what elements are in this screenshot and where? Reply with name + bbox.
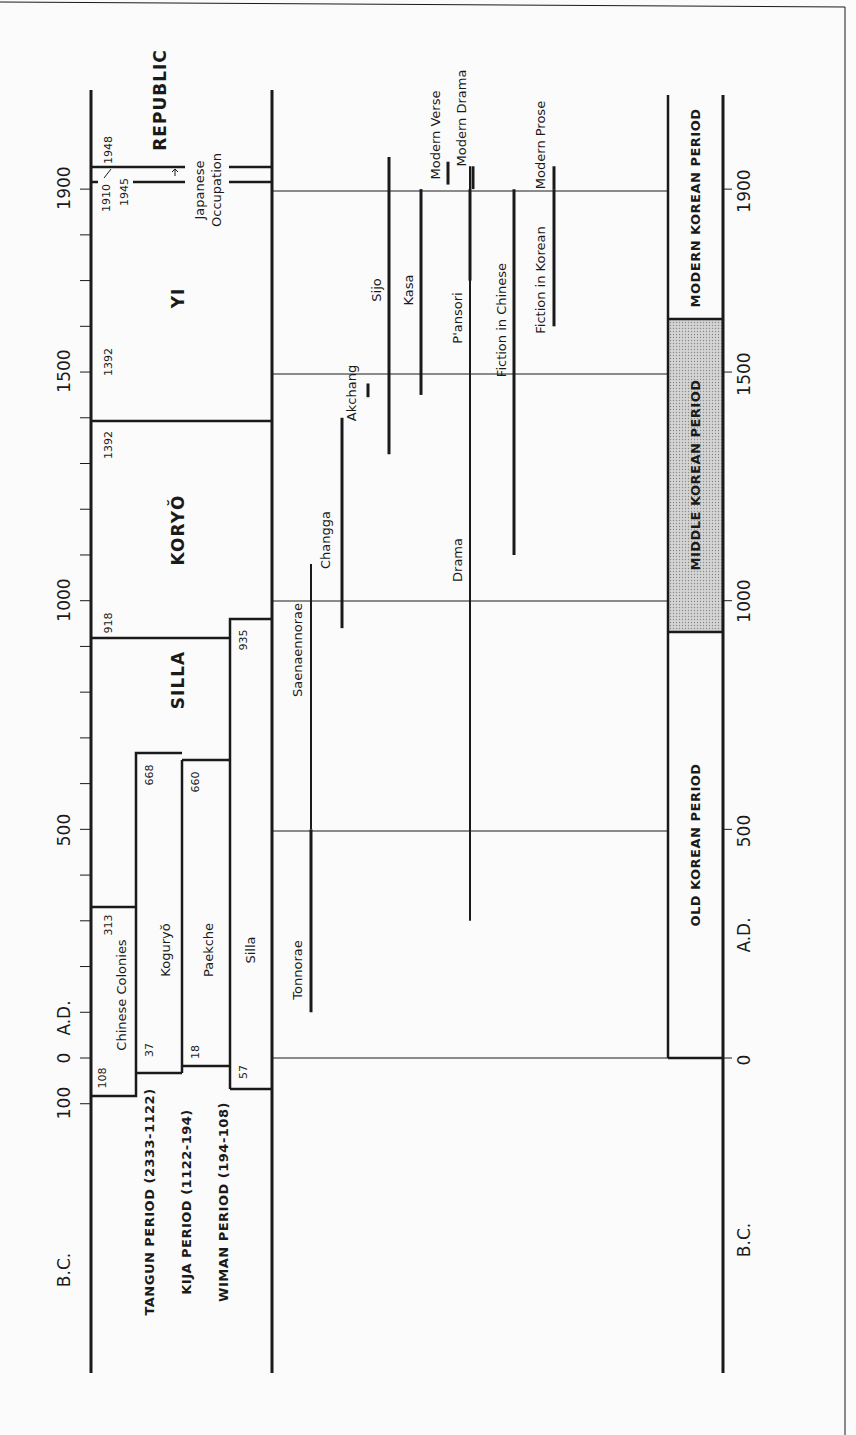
right-era-label-bc: B.C. [734, 1223, 754, 1257]
tick-label-500: 500 [54, 814, 74, 846]
literature-label-akchang: Akchang [344, 365, 359, 421]
literature-label-modern-drama: Modern Drama [454, 70, 469, 167]
koguryo-box [136, 753, 182, 1073]
kija-period-label: KIJA PERIOD (1122-194) [179, 1109, 194, 1295]
wiman-period-label: WIMAN PERIOD (194-108) [216, 1102, 231, 1302]
modern-korean-period-label: MODERN KOREAN PERIOD [688, 108, 703, 307]
right-tick-label-0: 0 [734, 1055, 754, 1066]
koguryo-end-year: 668 [143, 765, 156, 786]
paekche-box [182, 760, 230, 1066]
tick-label-1500: 1500 [54, 349, 74, 392]
right-tick-label-500: 500 [734, 815, 754, 847]
republic-label: REPUBLIC [150, 49, 170, 151]
literature-label-drama: Drama [450, 538, 465, 582]
literature-label-kasa: Kasa [401, 274, 416, 305]
paekche-label: Paekche [201, 923, 216, 977]
language-periods: MODERN KOREAN PERIOD MIDDLE KOREAN PERIO… [668, 95, 754, 1373]
left-axis-labels: 100 0 A.D. 500 1000 1500 1900 B.C. [54, 166, 74, 1287]
literature-label-modern-prose: Modern Prose [533, 101, 548, 189]
literature-label-changga: Changga [318, 511, 333, 569]
literature-label-fiction-in-chinese: Fiction in Chinese [494, 263, 509, 377]
yi-start-year: 1392 [102, 348, 115, 376]
tangun-period-label: TANGUN PERIOD (2333-1122) [142, 1088, 157, 1315]
chinese-colonies-start-year: 108 [96, 1068, 109, 1089]
japanese-occupation-label-2: Occupation [209, 153, 224, 227]
tick-label-0: 0 [54, 1053, 74, 1064]
silla-start-year: 57 [237, 1065, 250, 1079]
tick-label-1900: 1900 [54, 166, 74, 209]
silla-end-year: 935 [237, 630, 250, 651]
literature-label-saenaennorae: Saenaennorae [290, 603, 305, 697]
koryo-end-year: 1392 [102, 431, 115, 459]
era-label-bc: B.C. [54, 1253, 74, 1287]
literature-label-fiction-in-korean: Fiction in Korean [533, 226, 548, 333]
old-korean-period-label: OLD KOREAN PERIOD [688, 763, 703, 926]
koryo-dynasty-label: KORYŎ [167, 495, 188, 566]
tick-label-1000: 1000 [54, 578, 74, 621]
literature-genres: TonnoraeSaenaennoraeChanggaAkchangSijoKa… [290, 70, 554, 1013]
right-era-label-ad: A.D. [734, 917, 754, 952]
right-tick-label-1500: 1500 [734, 352, 754, 395]
literature-label-sijo: Sijo [369, 278, 384, 301]
chinese-colonies-label: Chinese Colonies [114, 939, 129, 1051]
dynasty-chart: 100 0 A.D. 500 1000 1500 1900 B.C. REPUB… [54, 49, 272, 1373]
silla-unified-label: SILLA [168, 651, 188, 709]
left-axis-ticks [80, 189, 91, 1104]
tick-label-100bc: 100 [54, 1087, 74, 1119]
paekche-end-year: 660 [189, 772, 202, 793]
era-label-ad: A.D. [54, 1000, 74, 1035]
paekche-start-year: 18 [189, 1045, 202, 1059]
chinese-colonies-end-year: 313 [102, 915, 115, 936]
korean-history-timeline-diagram: 100 0 A.D. 500 1000 1500 1900 B.C. REPUB… [0, 0, 856, 1435]
koguryo-start-year: 37 [143, 1043, 156, 1057]
literature-label-p-ansori: P'ansori [450, 292, 465, 343]
occupation-start-year: 1910 [100, 184, 113, 212]
republic-start-year: 1948 [102, 136, 115, 164]
literature-label-tonnorae: Tonnorae [290, 940, 305, 1000]
literature-label-modern-verse: Modern Verse [428, 91, 443, 180]
right-tick-label-1900: 1900 [734, 169, 754, 212]
japanese-occupation-label-1: Japanese [192, 160, 207, 220]
silla-box [230, 619, 272, 1089]
yi-dynasty-label: YI [168, 288, 188, 310]
middle-korean-period-label: MIDDLE KOREAN PERIOD [688, 379, 703, 570]
koryo-start-year: 918 [102, 613, 115, 634]
silla-kingdom-label: Silla [243, 936, 258, 963]
koguryo-label: Koguryŏ [158, 923, 173, 976]
right-tick-label-1000: 1000 [734, 579, 754, 622]
occupation-end-year: 1945 [118, 178, 131, 206]
